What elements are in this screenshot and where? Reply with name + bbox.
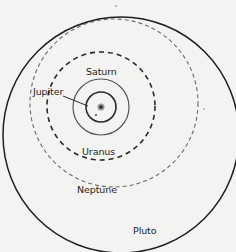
neptune-orbit (30, 19, 198, 187)
neptune-label: Neptune (77, 185, 117, 195)
pluto-orbit (3, 17, 236, 252)
speck (203, 108, 205, 110)
pluto-label: Pluto (133, 226, 156, 236)
orbit-diagram-graphic (0, 0, 236, 252)
jupiter-label: Jupiter (33, 87, 63, 97)
sun (99, 105, 103, 109)
saturn-label: Saturn (86, 67, 117, 77)
jupiter-leader-line (63, 96, 88, 106)
planet-dot (95, 114, 97, 116)
uranus-label: Uranus (82, 147, 115, 157)
speck (115, 5, 117, 7)
orbit-diagram: Saturn Jupiter Uranus Neptune Pluto (0, 0, 236, 252)
